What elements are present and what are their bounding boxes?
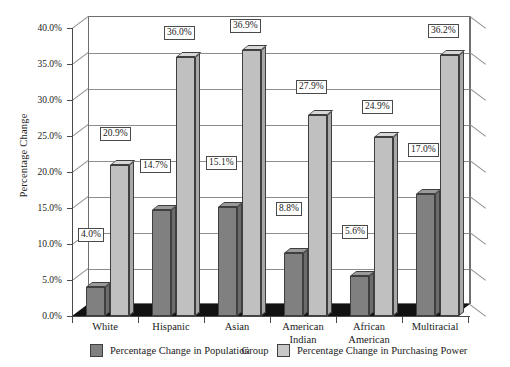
- x-tick-label-american-indian: American Indian: [270, 320, 336, 346]
- depth-line: [72, 268, 89, 281]
- y-tick-label: 0.0%: [0, 311, 62, 321]
- x-tick-label-line: Multiracial: [402, 320, 468, 333]
- y-axis-title: Percentage Change: [18, 86, 29, 226]
- bar-purchasing-asian: [242, 50, 261, 316]
- bar-purchasing-hispanic: [176, 57, 195, 316]
- y-tick-label: 5.0%: [0, 275, 62, 285]
- x-tick-label-line: Asian: [204, 320, 270, 333]
- gridline: [89, 89, 469, 90]
- data-label: 8.8%: [276, 202, 302, 216]
- y-axis-line: [72, 28, 73, 316]
- x-tick-label-white: White: [72, 320, 138, 333]
- data-label: 36.2%: [428, 24, 459, 38]
- bar-purchasing-multiracial: [440, 55, 459, 316]
- y-tick-label: 20.0%: [0, 167, 62, 177]
- depth-line: [72, 196, 89, 209]
- legend-item-population[interactable]: Percentage Change in Population: [90, 344, 250, 357]
- depth-line: [72, 16, 89, 29]
- bar-purchasing-white: [110, 165, 129, 316]
- x-tick-label-line: American: [270, 320, 336, 333]
- gridline: [89, 269, 469, 270]
- y-tick-label: 35.0%: [0, 59, 62, 69]
- legend-label: Percentage Change in Population: [110, 345, 250, 356]
- legend-swatch-icon: [90, 344, 103, 357]
- y-tick-label: 25.0%: [0, 131, 62, 141]
- bar-population-asian: [218, 207, 237, 316]
- bar-population-american-indian: [284, 253, 303, 316]
- gridline: [89, 53, 469, 54]
- chart-legend: Percentage Change in Population Percenta…: [0, 344, 510, 360]
- gridline: [89, 125, 469, 126]
- data-label: 27.9%: [296, 80, 327, 94]
- chart-container: 40.0% 35.0% 30.0% 25.0% 20.0% 15.0% 10.0…: [0, 0, 510, 367]
- x-tick-label-multiracial: Multiracial: [402, 320, 468, 333]
- data-label: 4.0%: [78, 228, 104, 242]
- bar-population-hispanic: [152, 210, 171, 316]
- bar-population-white: [86, 287, 105, 316]
- bar-purchasing-african-american: [374, 137, 393, 316]
- x-tick-label-asian: Asian: [204, 320, 270, 333]
- y-tick-label: 15.0%: [0, 203, 62, 213]
- gridline: [89, 233, 469, 234]
- gridline: [89, 197, 469, 198]
- legend-label: Percentage Change in Purchasing Power: [297, 345, 467, 356]
- data-label: 24.9%: [362, 100, 393, 114]
- bar-population-multiracial: [416, 194, 435, 316]
- depth-line: [72, 124, 89, 137]
- depth-line: [72, 88, 89, 101]
- x-axis-line: [72, 316, 470, 317]
- x-tick-label-hispanic: Hispanic: [138, 320, 204, 333]
- y-tick-label: 10.0%: [0, 239, 62, 249]
- y-tick-label: 40.0%: [0, 23, 62, 33]
- data-label: 5.6%: [342, 225, 368, 239]
- depth-line: [72, 52, 89, 65]
- x-tick-label-african-american: African American: [336, 320, 402, 346]
- x-tick-label-line: Hispanic: [138, 320, 204, 333]
- x-tick-label-line: African: [336, 320, 402, 333]
- plot-area: 40.0% 35.0% 30.0% 25.0% 20.0% 15.0% 10.0…: [0, 0, 510, 367]
- data-label: 14.7%: [140, 159, 171, 173]
- data-label: 15.1%: [206, 156, 237, 170]
- legend-swatch-icon: [277, 344, 290, 357]
- data-label: 20.9%: [100, 127, 131, 141]
- x-tick-label-line: White: [72, 320, 138, 333]
- legend-item-purchasing-power[interactable]: Percentage Change in Purchasing Power: [277, 344, 467, 357]
- data-label: 36.0%: [164, 26, 195, 40]
- data-label: 17.0%: [408, 143, 439, 157]
- depth-line: [72, 160, 89, 173]
- bar-population-african-american: [350, 276, 369, 316]
- bar-purchasing-american-indian: [308, 115, 327, 316]
- data-label: 36.9%: [230, 19, 261, 33]
- y-tick-label: 30.0%: [0, 95, 62, 105]
